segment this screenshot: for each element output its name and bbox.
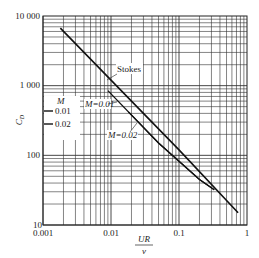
y-tick-100: 100	[27, 150, 41, 160]
legend-title: M	[56, 96, 65, 106]
legend-entry-0.02: 0.02	[55, 119, 71, 129]
x-label-denominator: ν	[142, 246, 146, 256]
series-m-0-02	[128, 112, 214, 190]
x-tick-0.1: 0.1	[173, 228, 184, 238]
y-tick-10000: 10 000	[15, 11, 40, 21]
x-tick-0.001: 0.001	[33, 228, 53, 238]
x-label-numerator: UR	[138, 234, 150, 244]
x-tick-1: 1	[245, 228, 250, 238]
x-tick-0.01: 0.01	[103, 228, 119, 238]
y-tick-1000: 1 000	[20, 80, 41, 90]
series-m-0-01	[108, 91, 214, 190]
legend-entry-0.01: 0.01	[55, 106, 71, 116]
chart-svg: 10 000 1 000 100 10 0.001 0.01 0.1 1 UR …	[0, 0, 259, 258]
annot-stokes: Stokes	[117, 64, 142, 74]
y-label: CD	[14, 114, 25, 125]
annot-m001: M=0.01	[84, 99, 114, 109]
annot-m002: M=0.02	[107, 130, 138, 140]
